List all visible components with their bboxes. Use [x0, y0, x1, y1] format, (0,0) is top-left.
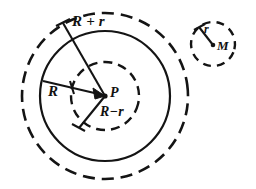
- center-point-p: [102, 93, 107, 98]
- center-point-m: [211, 43, 216, 48]
- label-main-radius: R: [48, 84, 58, 99]
- label-center-p: P: [110, 86, 119, 100]
- label-center-m: M: [217, 39, 229, 52]
- label-small-radius: r: [204, 23, 209, 35]
- geometry-figure: R + r R R−r P M r: [0, 0, 256, 189]
- label-outer-radius: R + r: [72, 14, 105, 29]
- label-inner-radius: R−r: [100, 105, 124, 119]
- radius-tick-inner: [72, 124, 85, 131]
- diagram-canvas: [0, 0, 256, 189]
